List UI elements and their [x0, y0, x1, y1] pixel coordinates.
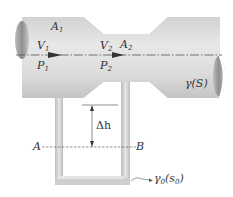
label-height-difference: Δh: [96, 120, 111, 131]
manometer-leader-line: [131, 178, 150, 181]
label-pressure-throat: P2: [100, 60, 112, 73]
label-manometer-fluid: γ0(s0): [154, 173, 184, 186]
label-point-a: A: [33, 141, 41, 152]
label-area-inlet: A1: [51, 21, 63, 34]
label-point-b: B: [136, 141, 144, 152]
label-pressure-inlet: P1: [37, 60, 49, 73]
inlet-opening: [15, 21, 29, 59]
label-velocity-throat: V2: [100, 40, 112, 53]
venturi-diagram: [0, 0, 233, 197]
label-fluid: γ(S): [185, 78, 208, 89]
label-velocity-inlet: V1: [37, 40, 49, 53]
label-area-throat: A2: [120, 39, 132, 52]
